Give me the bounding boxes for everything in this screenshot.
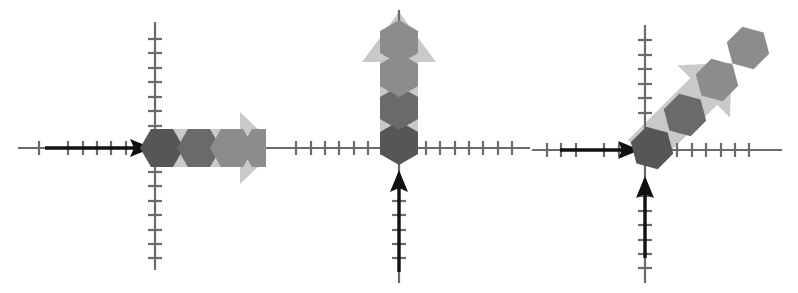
x-axis-black-arrow-icon [45,139,152,157]
panel-vertical-vector [266,0,532,293]
y-axis-black-arrow-icon [390,170,408,272]
vector-figure [0,0,798,293]
x-axis-black-arrow-icon [560,141,640,159]
panel-resultant-vector [532,0,798,293]
panel-horizontal-vector [0,0,266,293]
y-axis-black-arrow-icon [636,176,654,258]
